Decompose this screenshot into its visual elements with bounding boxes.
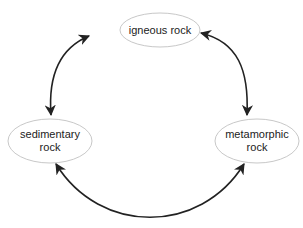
arrow-sedimentary-metamorphic: [56, 164, 244, 217]
sedimentary-rock-label-line2: rock: [40, 141, 61, 153]
igneous-rock-label: igneous rock: [129, 24, 192, 36]
metamorphic-rock-label-line2: rock: [247, 141, 268, 153]
rock-cycle-diagram: igneous rock sedimentary rock metamorphi…: [0, 0, 303, 228]
metamorphic-rock-label-line1: metamorphic: [225, 128, 289, 140]
sedimentary-rock-label-line1: sedimentary: [20, 128, 80, 140]
arrow-igneous-sedimentary: [51, 36, 89, 115]
arrow-igneous-metamorphic: [201, 33, 247, 115]
